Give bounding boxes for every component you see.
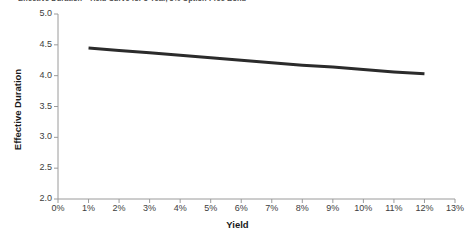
chart-container: Effective Duration - Yield Curve for 5 Y… [0,0,475,238]
plot-area [0,0,475,238]
data-line-effective-duration [89,48,425,74]
